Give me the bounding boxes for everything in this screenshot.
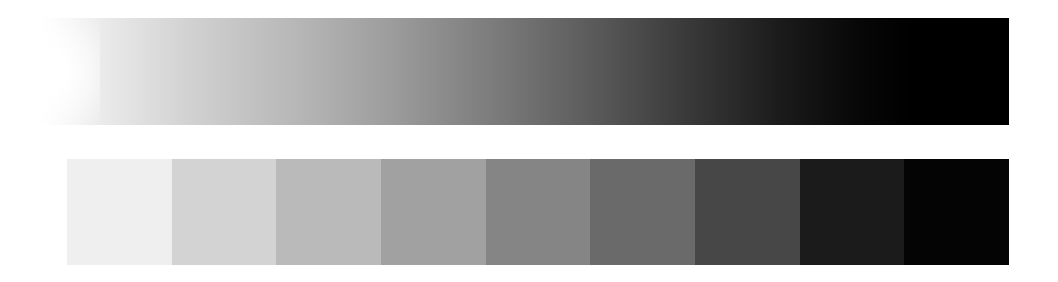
gray-swatch-4 [381, 159, 486, 265]
gray-swatch-2 [172, 159, 277, 265]
gray-swatch-7 [695, 159, 800, 265]
stepped-swatch-row [67, 159, 1009, 265]
gray-swatch-3 [276, 159, 381, 265]
continuous-gradient-bar [40, 18, 1009, 125]
gray-swatch-9 [904, 159, 1009, 265]
gray-swatch-6 [590, 159, 695, 265]
gray-swatch-1 [67, 159, 172, 265]
gray-swatch-8 [800, 159, 905, 265]
gray-swatch-5 [486, 159, 591, 265]
